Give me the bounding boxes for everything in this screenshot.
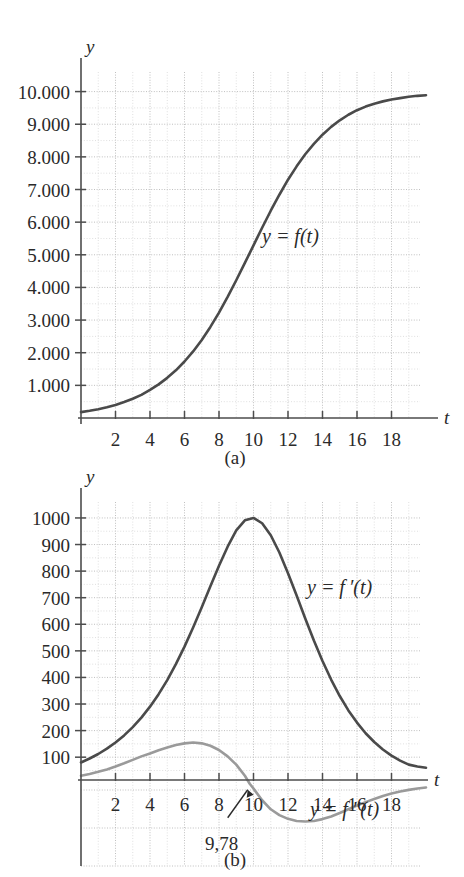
y-axis-tick-label: 1000 — [32, 508, 70, 529]
chart-b-svg: 1002003004005006007008009001000246810121… — [0, 468, 464, 877]
x-axis-tick-label: 6 — [180, 429, 190, 450]
y-axis-label: y — [84, 36, 95, 57]
x-axis-tick-label: 4 — [145, 429, 155, 450]
y-axis-tick-label: 800 — [42, 561, 71, 582]
x-axis-tick-label: 4 — [145, 794, 155, 815]
chart-a-svg: 1.0002.0003.0004.0005.0006.0007.0008.000… — [0, 0, 464, 468]
x-axis-tick-label: 2 — [111, 429, 121, 450]
x-axis-tick-label: 2 — [111, 794, 121, 815]
y-axis-tick-label: 2.000 — [27, 343, 70, 364]
x-axis-tick-label: 8 — [214, 794, 224, 815]
y-axis-tick-label: 6.000 — [27, 212, 70, 233]
figure-caption: (b) — [224, 849, 246, 871]
y-axis-tick-label: 3.000 — [27, 310, 70, 331]
y-axis-tick-label: 500 — [42, 641, 71, 662]
grid-lines — [81, 72, 420, 418]
x-axis-tick-label: 16 — [348, 429, 367, 450]
x-axis-tick-label: 12 — [279, 794, 298, 815]
x-axis-tick-label: 6 — [180, 794, 190, 815]
x-axis-tick-label: 8 — [214, 429, 224, 450]
x-axis-label: t — [444, 407, 450, 428]
y-axis-label: y — [84, 468, 95, 487]
y-axis-tick-label: 300 — [42, 694, 71, 715]
x-axis-tick-label: 18 — [382, 794, 401, 815]
curve-label-secondary: y = f ″(t) — [308, 798, 379, 821]
x-axis-label: t — [434, 769, 440, 790]
curve-label-primary: y = f(t) — [260, 225, 319, 248]
y-axis-tick-label: 10.000 — [18, 82, 70, 103]
figure-panel-b: 1002003004005006007008009001000246810121… — [0, 468, 464, 877]
y-axis-tick-label: 5.000 — [27, 245, 70, 266]
y-axis-tick-label: 400 — [42, 667, 71, 688]
y-axis-tick-label: 8.000 — [27, 147, 70, 168]
x-axis-tick-label: 14 — [313, 429, 333, 450]
y-axis-tick-label: 900 — [42, 535, 71, 556]
x-axis-tick-label: 10 — [244, 429, 263, 450]
y-axis-tick-label: 600 — [42, 614, 71, 635]
x-axis-tick-label: 18 — [382, 429, 401, 450]
curve-label-primary: y = f ′(t) — [305, 576, 373, 599]
y-axis-tick-label: 9.000 — [27, 114, 70, 135]
figure-panel-a: 1.0002.0003.0004.0005.0006.0007.0008.000… — [0, 0, 464, 468]
y-axis-tick-label: 100 — [42, 747, 71, 768]
y-axis-tick-label: 4.000 — [27, 277, 70, 298]
y-axis-tick-label: 1.000 — [27, 375, 70, 396]
y-axis-tick-label: 200 — [42, 721, 71, 742]
y-axis-tick-label: 700 — [42, 588, 71, 609]
x-axis-tick-label: 12 — [279, 429, 298, 450]
y-axis-tick-label: 7.000 — [27, 180, 70, 201]
figure-caption: (a) — [224, 447, 245, 468]
